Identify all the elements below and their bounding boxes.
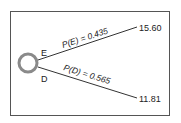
branch-e-payoff: 15.60 bbox=[139, 23, 162, 33]
chance-node-icon bbox=[19, 54, 37, 72]
branch-e-label: E bbox=[41, 48, 47, 58]
branch-e-probability: P(E) = 0.435 bbox=[61, 25, 110, 49]
branch-d-label: D bbox=[41, 74, 48, 84]
decision-tree: E D P(E) = 0.435 P(D) = 0.565 15.60 11.8… bbox=[0, 0, 181, 123]
branch-d-payoff: 11.81 bbox=[139, 94, 161, 104]
